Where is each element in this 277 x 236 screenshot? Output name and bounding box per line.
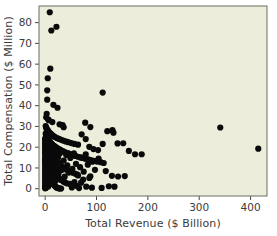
data-point bbox=[47, 66, 53, 72]
data-point bbox=[69, 166, 75, 172]
data-point bbox=[103, 168, 109, 174]
data-point bbox=[120, 140, 126, 146]
x-tick-label: 100 bbox=[86, 201, 106, 213]
data-point bbox=[92, 167, 98, 173]
data-point bbox=[115, 173, 121, 179]
data-point bbox=[132, 151, 138, 157]
data-point bbox=[100, 89, 106, 95]
data-point bbox=[58, 167, 64, 173]
data-point bbox=[52, 178, 58, 184]
data-point bbox=[109, 173, 115, 179]
y-tick-label: 0 bbox=[25, 182, 32, 194]
data-point bbox=[110, 130, 116, 136]
data-point bbox=[48, 27, 54, 33]
data-point bbox=[83, 151, 89, 157]
data-point bbox=[80, 177, 86, 183]
data-point bbox=[82, 120, 88, 126]
data-point bbox=[81, 169, 87, 175]
data-point bbox=[87, 124, 93, 130]
data-point bbox=[126, 148, 132, 154]
data-point bbox=[79, 131, 85, 137]
data-point bbox=[75, 142, 81, 148]
x-axis-title: Total Revenue ($ Billion) bbox=[84, 217, 221, 230]
chart-canvas: 01020304050607080 0100200300400 Total Re… bbox=[0, 0, 277, 236]
data-point bbox=[255, 146, 261, 152]
data-point bbox=[71, 150, 77, 156]
y-axis-title: Total Compensation ($ Million) bbox=[2, 16, 15, 187]
data-point bbox=[95, 147, 101, 153]
data-point bbox=[89, 159, 95, 165]
data-point bbox=[44, 87, 50, 93]
x-tick-label: 400 bbox=[241, 201, 261, 213]
data-point bbox=[95, 156, 101, 162]
x-tick-label: 300 bbox=[189, 201, 209, 213]
data-point bbox=[104, 128, 110, 134]
y-tick-label: 30 bbox=[19, 120, 32, 132]
data-point bbox=[45, 75, 51, 81]
data-point bbox=[86, 175, 92, 181]
data-point bbox=[101, 160, 107, 166]
data-point bbox=[83, 184, 89, 190]
data-point bbox=[83, 136, 89, 142]
data-point bbox=[47, 9, 53, 15]
y-tick-label: 70 bbox=[19, 37, 32, 49]
x-tick-label: 0 bbox=[42, 201, 49, 213]
y-tick-label: 20 bbox=[19, 141, 32, 153]
data-point bbox=[106, 183, 112, 189]
data-point bbox=[111, 184, 117, 190]
scatter-plot-figure: 01020304050607080 0100200300400 Total Re… bbox=[0, 0, 277, 236]
y-tick-label: 40 bbox=[19, 99, 32, 111]
data-point bbox=[89, 185, 95, 191]
y-tick-label: 50 bbox=[19, 79, 32, 91]
data-point bbox=[114, 140, 120, 146]
data-point bbox=[61, 124, 67, 130]
data-point bbox=[54, 105, 60, 111]
data-point bbox=[99, 185, 105, 191]
y-tick-label: 10 bbox=[19, 162, 32, 174]
data-point bbox=[50, 144, 56, 150]
data-point bbox=[139, 151, 145, 157]
data-point bbox=[44, 97, 50, 103]
y-axis-ticks: 01020304050607080 bbox=[19, 16, 39, 194]
data-point bbox=[76, 185, 82, 191]
data-point bbox=[100, 141, 106, 147]
data-point bbox=[53, 24, 59, 30]
x-tick-label: 200 bbox=[138, 201, 158, 213]
data-point bbox=[58, 185, 64, 191]
y-tick-label: 80 bbox=[19, 16, 32, 28]
data-point bbox=[64, 162, 70, 168]
data-point bbox=[122, 173, 128, 179]
y-tick-label: 60 bbox=[19, 58, 32, 70]
data-point bbox=[217, 124, 223, 130]
data-point bbox=[49, 119, 55, 125]
data-point bbox=[75, 172, 81, 178]
